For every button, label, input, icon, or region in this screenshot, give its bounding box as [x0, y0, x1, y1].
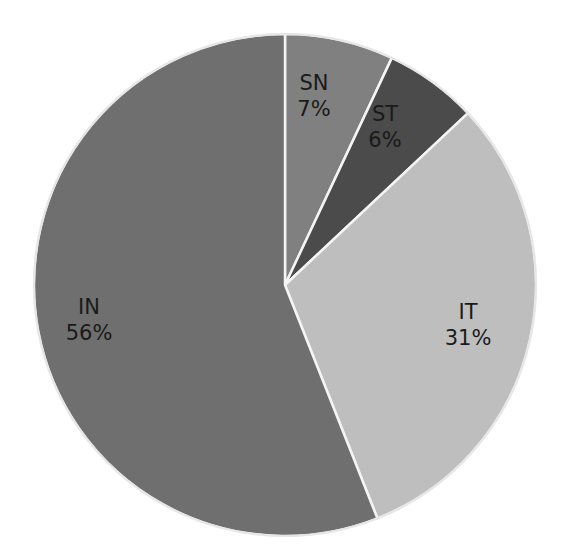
- slice-label-in: IN56%: [66, 294, 113, 346]
- slice-label-st: ST6%: [368, 101, 401, 153]
- slice-percent: 31%: [445, 325, 492, 351]
- slice-percent: 56%: [66, 320, 113, 346]
- slice-category: IT: [445, 299, 492, 325]
- slice-percent: 7%: [297, 96, 330, 122]
- slice-label-sn: SN7%: [297, 70, 330, 122]
- slice-percent: 6%: [368, 127, 401, 153]
- slice-category: SN: [297, 70, 330, 96]
- slice-label-it: IT31%: [445, 299, 492, 351]
- pie-chart: [0, 0, 563, 557]
- slice-category: IN: [66, 294, 113, 320]
- slice-category: ST: [368, 101, 401, 127]
